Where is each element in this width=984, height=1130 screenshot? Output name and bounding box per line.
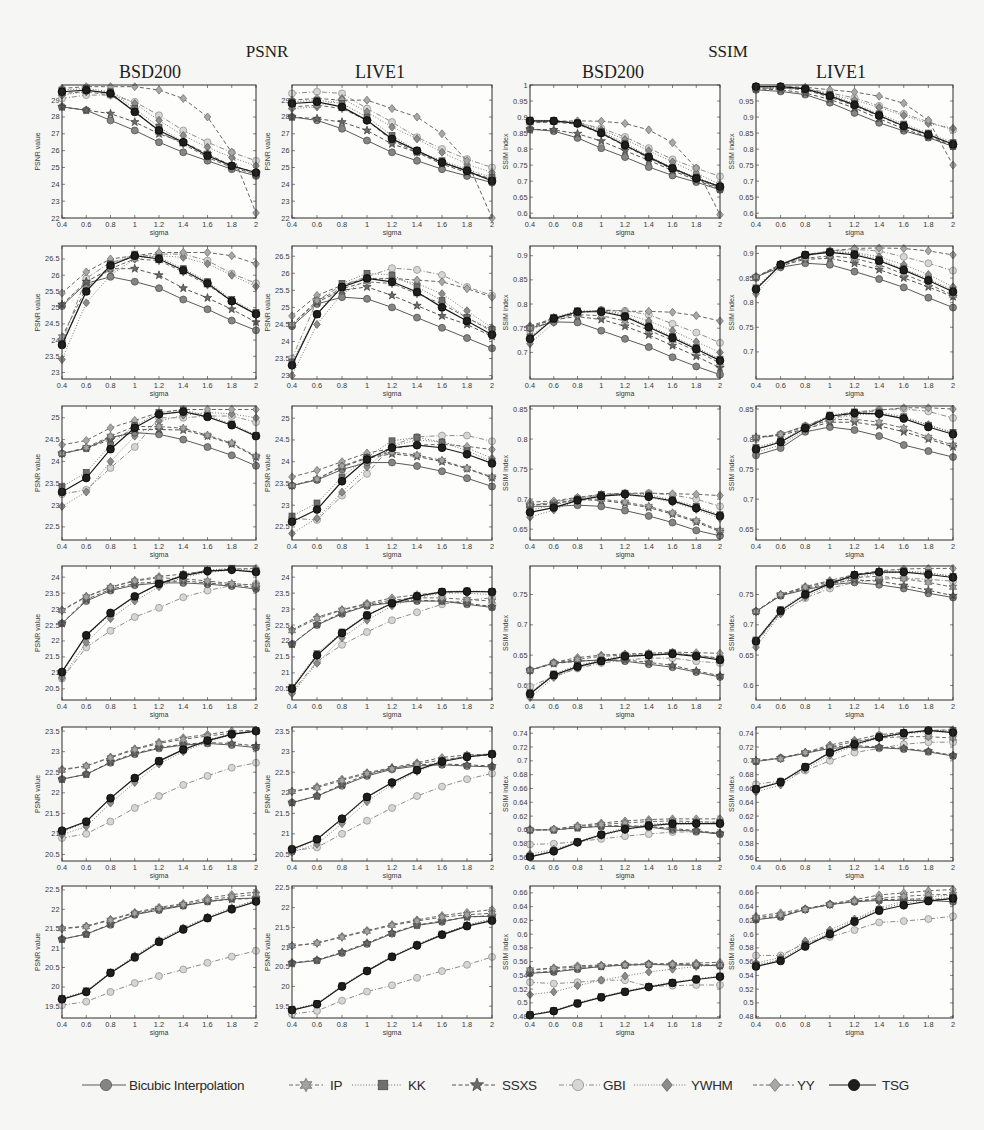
x-tick-label: 1.2 bbox=[849, 863, 859, 872]
circle-marker-icon bbox=[107, 818, 114, 825]
x-tick-label: 0.8 bbox=[800, 863, 810, 872]
circle-marker-icon bbox=[131, 127, 138, 134]
subplot-r6-c3-ssim-bsd200: 0.40.60.811.21.41.61.820.480.50.520.540.… bbox=[502, 886, 724, 1037]
circle-marker-icon bbox=[413, 766, 421, 774]
x-tick-label: 0.8 bbox=[800, 1020, 810, 1029]
subplot-r4-c3-ssim-bsd200: 0.40.60.811.21.41.61.820.60.650.70.75sig… bbox=[502, 566, 724, 719]
x-tick-label: 0.8 bbox=[572, 702, 582, 711]
y-tick-label: 0.64 bbox=[739, 798, 753, 807]
circle-marker-icon bbox=[464, 432, 471, 439]
y-tick-label: 0.65 bbox=[513, 193, 527, 202]
circle-marker-icon bbox=[179, 138, 187, 146]
circle-marker-icon bbox=[925, 916, 932, 923]
circle-marker-icon bbox=[156, 973, 163, 980]
y-tick-label: 22.5 bbox=[275, 522, 289, 531]
circle-marker-icon bbox=[621, 988, 629, 996]
circle-marker-icon bbox=[338, 103, 346, 111]
x-tick-label: 0.8 bbox=[572, 1020, 582, 1029]
y-axis-label: SSIM index bbox=[502, 294, 509, 330]
circle-marker-icon bbox=[204, 772, 211, 779]
x-tick-label: 1.2 bbox=[387, 863, 397, 872]
x-tick-label: 0.4 bbox=[751, 542, 761, 551]
x-tick-label: 1.4 bbox=[412, 1020, 422, 1029]
circle-marker-icon bbox=[100, 1079, 111, 1090]
circle-marker-icon bbox=[339, 830, 346, 837]
circle-marker-icon bbox=[692, 820, 700, 828]
y-tick-label: 0.7 bbox=[743, 347, 753, 356]
circle-marker-icon bbox=[82, 631, 90, 639]
y-tick-label: 0.52 bbox=[513, 985, 527, 994]
x-tick-label: 0.4 bbox=[57, 702, 67, 711]
x-tick-label: 0.8 bbox=[337, 381, 347, 390]
x-tick-label: 0.8 bbox=[572, 863, 582, 872]
circle-marker-icon bbox=[801, 943, 809, 951]
circle-marker-icon bbox=[388, 953, 396, 961]
y-tick-label: 22.5 bbox=[45, 885, 59, 894]
circle-marker-icon bbox=[692, 174, 700, 182]
circle-marker-icon bbox=[414, 463, 421, 470]
circle-marker-icon bbox=[439, 968, 446, 975]
y-tick-label: 0.5 bbox=[743, 998, 753, 1007]
circle-marker-icon bbox=[463, 753, 471, 761]
subplot-r5-c2-psnr-live1: 0.40.60.811.21.41.61.8220.52121.52222.52… bbox=[264, 727, 496, 880]
subplot-r4-c2-psnr-live1: 0.40.60.811.21.41.61.8220.52121.52222.52… bbox=[264, 566, 496, 719]
y-tick-label: 24 bbox=[281, 573, 289, 582]
y-tick-label: 20.5 bbox=[275, 684, 289, 693]
y-tick-label: 0.7 bbox=[743, 177, 753, 186]
x-tick-label: 0.6 bbox=[775, 381, 785, 390]
circle-marker-icon bbox=[645, 153, 653, 161]
circle-marker-icon bbox=[83, 830, 90, 837]
circle-marker-icon bbox=[669, 354, 676, 361]
x-tick-label: 0.4 bbox=[751, 1020, 761, 1029]
circle-marker-icon bbox=[413, 942, 421, 950]
x-tick-label: 1.8 bbox=[462, 863, 472, 872]
y-tick-label: 24.5 bbox=[45, 435, 59, 444]
x-tick-label: 0.6 bbox=[81, 1020, 91, 1029]
y-tick-label: 23.5 bbox=[45, 589, 59, 598]
circle-marker-icon bbox=[389, 459, 396, 466]
x-tick-label: 1.2 bbox=[387, 702, 397, 711]
y-axis-label: PSNR value bbox=[34, 614, 41, 652]
square-marker-icon bbox=[389, 272, 395, 278]
x-tick-label: 1.6 bbox=[202, 220, 212, 229]
circle-marker-icon bbox=[388, 278, 396, 286]
circle-marker-icon bbox=[645, 344, 652, 351]
square-marker-icon bbox=[378, 1080, 388, 1090]
y-tick-label: 25.5 bbox=[275, 286, 289, 295]
y-tick-label: 0.6 bbox=[743, 209, 753, 218]
x-tick-label: 0.8 bbox=[105, 542, 115, 551]
x-tick-label: 2 bbox=[490, 702, 494, 711]
circle-marker-icon bbox=[313, 651, 321, 659]
circle-marker-icon bbox=[851, 409, 859, 417]
subplot-r1-c4-ssim-live1: 0.40.60.811.21.41.61.820.60.650.70.750.8… bbox=[728, 83, 957, 237]
x-tick-label: 0.6 bbox=[312, 220, 322, 229]
x-tick-label: 1.4 bbox=[644, 702, 654, 711]
y-tick-label: 26 bbox=[281, 146, 289, 155]
y-axis-label: PSNR value bbox=[264, 933, 271, 971]
y-tick-label: 26.5 bbox=[275, 252, 289, 261]
x-axis-label: sigma bbox=[383, 711, 402, 719]
x-axis-label: sigma bbox=[150, 229, 169, 237]
y-tick-label: 0.48 bbox=[739, 1012, 753, 1021]
x-tick-label: 1.4 bbox=[178, 1020, 188, 1029]
x-tick-label: 1.2 bbox=[154, 381, 164, 390]
x-tick-label: 1 bbox=[365, 542, 369, 551]
x-tick-label: 0.6 bbox=[549, 542, 559, 551]
x-tick-label: 1.6 bbox=[437, 381, 447, 390]
x-tick-label: 0.4 bbox=[57, 381, 67, 390]
x-tick-label: 1.2 bbox=[620, 542, 630, 551]
x-tick-label: 2 bbox=[951, 863, 955, 872]
y-tick-label: 0.6 bbox=[743, 825, 753, 834]
circle-marker-icon bbox=[851, 101, 859, 109]
plot-area bbox=[530, 727, 720, 861]
y-axis-label: PSNR value bbox=[264, 614, 271, 652]
x-tick-label: 0.8 bbox=[337, 863, 347, 872]
x-tick-label: 1.6 bbox=[202, 381, 212, 390]
circle-marker-icon bbox=[439, 783, 446, 790]
circle-marker-icon bbox=[463, 317, 471, 325]
x-tick-label: 1.4 bbox=[874, 863, 884, 872]
circle-marker-icon bbox=[645, 164, 652, 171]
y-tick-label: 0.7 bbox=[517, 495, 527, 504]
circle-marker-icon bbox=[363, 116, 371, 124]
x-tick-label: 1.6 bbox=[437, 220, 447, 229]
